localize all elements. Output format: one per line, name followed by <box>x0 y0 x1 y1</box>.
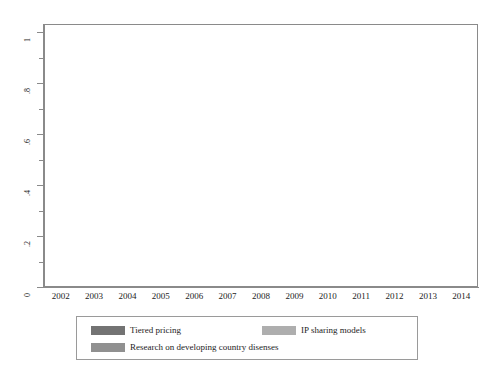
y-tick-0.5 <box>39 160 44 161</box>
plot-frame <box>44 24 478 287</box>
x-axis-label-2002: 2002 <box>44 291 77 302</box>
y-tick-0.8 <box>37 83 44 84</box>
legend-swatch-tiered-pricing <box>91 326 125 335</box>
legend-label-ip-sharing-models: IP sharing models <box>301 325 366 335</box>
y-tick-1 <box>37 32 44 33</box>
x-axis-label-2003: 2003 <box>77 291 110 302</box>
y-tick-0.6 <box>37 134 44 135</box>
x-axis-label-2011: 2011 <box>344 291 377 302</box>
y-tick-0.3 <box>39 211 44 212</box>
x-axis-label-2014: 2014 <box>445 291 478 302</box>
x-axis-label-2006: 2006 <box>178 291 211 302</box>
legend-entry-ip-sharing-models: IP sharing models <box>262 325 366 335</box>
y-axis-label-.6: .6 <box>24 134 32 150</box>
bar-chart-figure: 0.2.4.6.81 20022003200420052006200720082… <box>0 0 494 373</box>
x-axis <box>43 287 479 288</box>
x-axis-label-2004: 2004 <box>111 291 144 302</box>
y-tick-0.4 <box>37 185 44 186</box>
y-axis <box>43 24 44 288</box>
legend-swatch-ip-sharing-models <box>262 326 296 335</box>
legend-swatch-research-developing-country <box>91 343 125 352</box>
y-axis-label-.2: .2 <box>24 236 32 252</box>
y-tick-0.1 <box>39 262 44 263</box>
x-axis-label-2005: 2005 <box>144 291 177 302</box>
chart-legend: Tiered pricing IP sharing models Researc… <box>76 316 418 360</box>
legend-entry-tiered-pricing: Tiered pricing <box>91 325 181 335</box>
y-axis-label-0: 0 <box>24 287 32 303</box>
x-axis-label-2013: 2013 <box>411 291 444 302</box>
x-axis-label-2010: 2010 <box>311 291 344 302</box>
legend-entry-research-developing-country: Research on developing country disenses <box>91 342 278 352</box>
x-axis-label-2008: 2008 <box>244 291 277 302</box>
y-tick-0 <box>37 287 44 288</box>
x-axis-label-2007: 2007 <box>211 291 244 302</box>
y-axis-label-.4: .4 <box>24 185 32 201</box>
legend-label-research-developing-country: Research on developing country disenses <box>130 342 278 352</box>
legend-label-tiered-pricing: Tiered pricing <box>130 325 181 335</box>
y-tick-0.2 <box>37 236 44 237</box>
y-axis-label-1: 1 <box>24 32 32 48</box>
y-tick-0.7 <box>39 109 44 110</box>
x-axis-label-2012: 2012 <box>378 291 411 302</box>
y-tick-0.9 <box>39 58 44 59</box>
x-axis-label-2009: 2009 <box>278 291 311 302</box>
y-axis-label-.8: .8 <box>24 83 32 99</box>
